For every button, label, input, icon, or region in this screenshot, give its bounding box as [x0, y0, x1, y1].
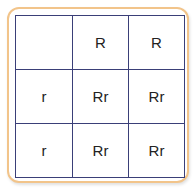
- allele-header: R: [129, 16, 185, 70]
- header-row: R R: [16, 16, 185, 70]
- genotype-cell: Rr: [73, 124, 129, 178]
- table-row: r Rr Rr: [16, 124, 185, 178]
- table-row: r Rr Rr: [16, 70, 185, 124]
- allele-label: r: [16, 124, 73, 178]
- allele-header: R: [73, 16, 129, 70]
- genotype-cell: Rr: [129, 124, 185, 178]
- genotype-cell: Rr: [129, 70, 185, 124]
- punnett-square: R R r Rr Rr r Rr Rr: [15, 15, 185, 178]
- corner-cell: [16, 16, 73, 70]
- genotype-cell: Rr: [73, 70, 129, 124]
- allele-label: r: [16, 70, 73, 124]
